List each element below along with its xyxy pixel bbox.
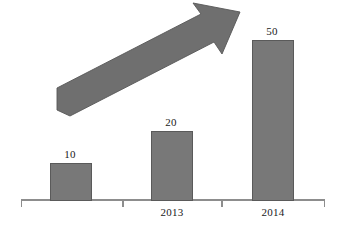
bar-value-label-2: 50 xyxy=(266,25,278,37)
category-label-2: 2014 xyxy=(262,206,285,218)
bar-2[interactable] xyxy=(252,40,293,200)
bar-value-label-0: 10 xyxy=(64,148,76,160)
bar-chart-with-growth-arrow: 10 20 50 2013 2014 xyxy=(0,0,343,226)
bar-value-label-1: 20 xyxy=(165,116,177,128)
chart-canvas: 10 20 50 2013 2014 xyxy=(0,0,343,226)
bar-1[interactable] xyxy=(151,131,192,200)
bar-0[interactable] xyxy=(50,163,91,200)
category-label-1: 2013 xyxy=(161,206,184,218)
